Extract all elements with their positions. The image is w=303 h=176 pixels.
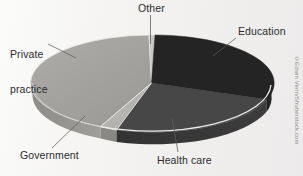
pie-top-face (31, 35, 274, 132)
slice-label-private-practice-line2: practice (10, 84, 48, 96)
pie-chart-figure: Other Education Private practice Governm… (0, 0, 303, 176)
slice-label-private-practice: Private practice (10, 26, 48, 118)
slice-label-government: Government (20, 150, 79, 162)
slice-label-other: Other (138, 3, 165, 15)
slice-label-education: Education (238, 26, 286, 38)
slice-label-health-care: Health care (157, 155, 212, 167)
image-credit: ©Edwin Verin/Shutterstock.com (291, 56, 303, 168)
slice-label-private-practice-line1: Private (10, 49, 48, 61)
